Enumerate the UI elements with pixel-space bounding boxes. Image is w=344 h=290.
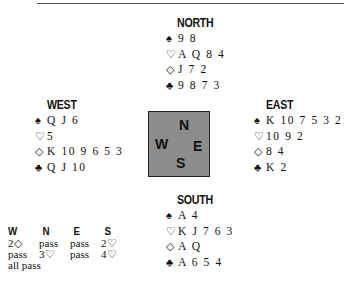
bid-header-west: W [8, 224, 34, 238]
west-title: WEST [47, 97, 112, 113]
heart-icon: ♡ [166, 47, 178, 63]
north-hearts: ♡A Q 8 4 [166, 47, 225, 63]
north-clubs: ♣9 8 7 3 [166, 78, 225, 94]
bid-header-south: S [101, 224, 127, 238]
north-spades: ♠9 8 [166, 31, 225, 47]
east-hand: EAST ♠K 10 7 5 3 2 ♡10 9 2 ◇8 4 ♣K 2 [254, 97, 342, 175]
diamond-icon: ◇ [166, 239, 178, 255]
spade-icon: ♠ [254, 113, 266, 129]
north-title: NORTH [177, 15, 218, 31]
west-clubs: ♣Q J 10 [35, 160, 123, 176]
club-icon: ♣ [254, 160, 266, 176]
heart-icon: ♡ [166, 224, 178, 240]
spade-icon: ♠ [166, 31, 178, 47]
east-title: EAST [266, 97, 331, 113]
south-spades: ♠A 4 [166, 208, 234, 224]
south-hearts: ♡K J 7 6 3 [166, 224, 234, 240]
heart-icon: ♡ [35, 129, 47, 145]
east-diamonds: ◇8 4 [254, 144, 342, 160]
diamond-icon: ◇ [254, 144, 266, 160]
compass-east: E [193, 139, 202, 153]
compass-box: N W E S [148, 111, 210, 177]
west-hand: WEST ♠Q J 6 ♡5 ◇K 10 9 6 5 3 ♣Q J 10 [35, 97, 123, 175]
north-diamonds: ◇J 7 2 [166, 62, 225, 78]
compass-north: N [179, 118, 189, 132]
compass-west: W [155, 137, 168, 151]
club-icon: ♣ [166, 255, 178, 271]
east-clubs: ♣K 2 [254, 160, 342, 176]
bid-header-east: E [70, 224, 96, 238]
south-diamonds: ◇A Q [166, 239, 234, 255]
club-icon: ♣ [35, 160, 47, 176]
diamond-icon: ◇ [35, 144, 47, 160]
compass-south: S [176, 156, 185, 170]
north-hand: NORTH ♠9 8 ♡A Q 8 4 ◇J 7 2 ♣9 8 7 3 [166, 15, 225, 93]
west-spades: ♠Q J 6 [35, 113, 123, 129]
top-rule [37, 3, 344, 4]
south-clubs: ♣A 6 5 4 [166, 255, 234, 271]
bidding-table: W N E S 2◇ pass pass 2♡ pass 3♡ pass 4♡ … [8, 224, 132, 271]
heart-icon: ♡ [254, 129, 266, 145]
east-spades: ♠K 10 7 5 3 2 [254, 113, 342, 129]
bidding-row: all pass [8, 260, 132, 271]
spade-icon: ♠ [166, 208, 178, 224]
bid-header-north: N [39, 224, 65, 238]
south-hand: SOUTH ♠A 4 ♡K J 7 6 3 ◇A Q ♣A 6 5 4 [166, 192, 234, 270]
west-diamonds: ◇K 10 9 6 5 3 [35, 144, 123, 160]
club-icon: ♣ [166, 78, 178, 94]
east-hearts: ♡10 9 2 [254, 129, 342, 145]
west-hearts: ♡5 [35, 129, 123, 145]
bidding-header: W N E S [8, 224, 132, 238]
spade-icon: ♠ [35, 113, 47, 129]
diamond-icon: ◇ [166, 62, 178, 78]
south-title: SOUTH [177, 192, 225, 208]
